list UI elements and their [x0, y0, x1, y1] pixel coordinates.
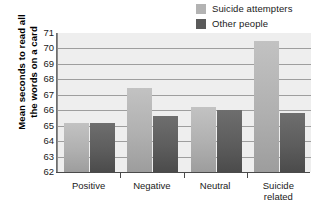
bar — [127, 88, 152, 172]
x-axis-tick — [247, 173, 248, 178]
x-axis-tick — [120, 173, 121, 178]
chart-legend: Suicide attempters Other people — [196, 2, 328, 32]
bar — [191, 107, 216, 172]
x-axis-category-label-line: Negative — [133, 180, 171, 191]
x-axis-category-label: Positive — [57, 180, 120, 191]
x-axis-category-labels: PositiveNegativeNeutralSuiciderelated — [57, 180, 310, 206]
legend-item-other-people: Other people — [196, 17, 328, 30]
y-axis-tick-label: 68 — [30, 74, 54, 84]
y-axis-tick-label: 69 — [30, 59, 54, 69]
x-axis-category-label-line: Suicide — [263, 180, 294, 191]
y-axis-tick-label: 62 — [30, 167, 54, 177]
y-axis-tick-label: 70 — [30, 43, 54, 53]
x-axis-line — [56, 172, 310, 173]
bar-chart: Suicide attempters Other people Mean sec… — [0, 0, 328, 206]
legend-item-suicide-attempters: Suicide attempters — [196, 2, 328, 15]
x-axis-tick — [184, 173, 185, 178]
legend-swatch-icon — [196, 4, 206, 14]
y-axis-tick-labels: 71706968676665646362 — [30, 26, 54, 178]
bar — [254, 41, 279, 172]
x-axis-category-label: Neutral — [184, 180, 247, 191]
y-axis-tick-label: 64 — [30, 136, 54, 146]
x-axis-category-label-line: related — [247, 191, 310, 202]
bar — [153, 116, 178, 172]
y-axis-tick-label: 71 — [30, 28, 54, 38]
legend-swatch-icon — [196, 19, 206, 29]
x-axis-category-label: Negative — [120, 180, 183, 191]
plot-area — [57, 33, 311, 172]
bar — [217, 110, 242, 172]
y-axis-tick-label: 63 — [30, 152, 54, 162]
y-axis-tick-label: 67 — [30, 90, 54, 100]
x-axis-category-label-line: Positive — [72, 180, 105, 191]
y-axis-line — [56, 33, 57, 173]
legend-label: Suicide attempters — [212, 3, 292, 14]
x-axis-category-label: Suiciderelated — [247, 180, 310, 202]
x-axis-category-label-line: Neutral — [200, 180, 231, 191]
y-axis-tick-label: 66 — [30, 105, 54, 115]
legend-label: Other people — [212, 18, 268, 29]
bar — [280, 113, 305, 172]
y-axis-tick-label: 65 — [30, 121, 54, 131]
y-axis-title-line-1: Mean seconds to read all — [16, 14, 27, 129]
bar — [90, 123, 115, 172]
bar — [64, 123, 89, 172]
